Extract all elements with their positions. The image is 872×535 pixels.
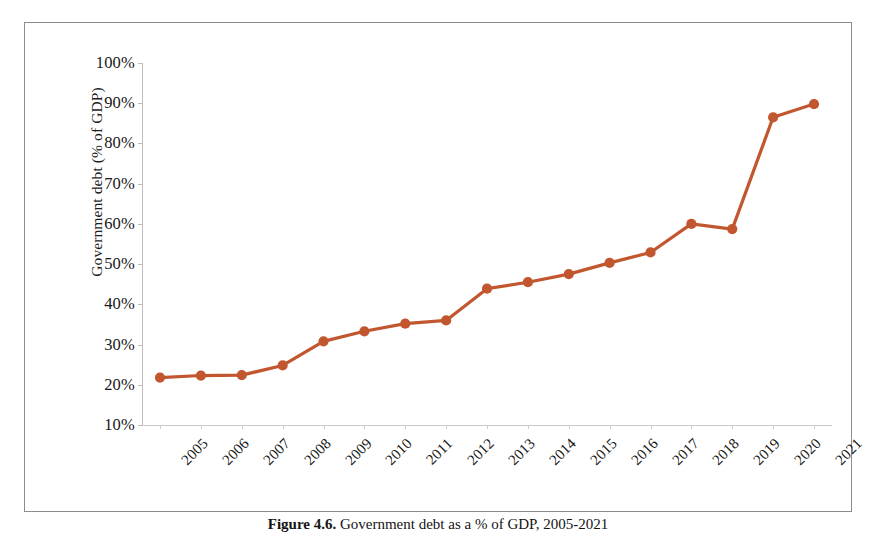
data-point-marker <box>196 370 206 380</box>
data-point-marker <box>768 112 778 122</box>
y-axis-tick-label: 100% <box>96 53 135 73</box>
y-axis-tick-label: 80% <box>104 133 135 153</box>
x-axis-tick-mark <box>487 425 488 429</box>
y-axis-tick-label: 70% <box>104 174 135 194</box>
x-axis-tick-label: 2005 <box>178 435 212 469</box>
y-axis-tick-label: 20% <box>104 375 135 395</box>
data-point-marker <box>318 336 328 346</box>
data-point-marker <box>482 284 492 294</box>
x-axis-tick-label: 2013 <box>505 435 539 469</box>
data-point-marker <box>400 319 410 329</box>
line-series-government-debt <box>142 63 832 425</box>
x-axis-tick-mark <box>732 425 733 429</box>
x-axis-tick-label: 2009 <box>342 435 376 469</box>
x-axis-tick-mark <box>324 425 325 429</box>
series-line <box>160 104 814 378</box>
data-point-marker <box>645 247 655 257</box>
x-axis-tick-mark <box>569 425 570 429</box>
x-axis-tick-label: 2021 <box>832 435 866 469</box>
data-point-marker <box>727 224 737 234</box>
x-axis-tick-label: 2010 <box>382 435 416 469</box>
y-axis-tick-mark <box>138 425 142 426</box>
x-axis-tick-label: 2011 <box>423 435 456 468</box>
x-axis-tick-mark <box>160 425 161 429</box>
data-point-marker <box>278 360 288 370</box>
x-axis-tick-mark <box>691 425 692 429</box>
y-axis-tick-label: 40% <box>104 294 135 314</box>
figure-caption-text: Government debt as a % of GDP, 2005-2021 <box>340 516 608 532</box>
x-axis-tick-label: 2015 <box>587 435 621 469</box>
figure-caption-label: Figure 4.6. <box>268 516 336 532</box>
data-point-marker <box>809 99 819 109</box>
x-axis-tick-mark <box>528 425 529 429</box>
figure-frame: Government debt (% of GDP) 100%90%80%70%… <box>24 22 852 512</box>
x-axis-tick-mark <box>651 425 652 429</box>
y-axis-tick-label: 90% <box>104 93 135 113</box>
data-point-marker <box>686 219 696 229</box>
y-axis-tick-label: 30% <box>104 335 135 355</box>
figure-caption: Figure 4.6. Government debt as a % of GD… <box>24 516 852 533</box>
x-axis-tick-mark <box>814 425 815 429</box>
x-axis-tick-label: 2016 <box>628 435 662 469</box>
x-axis-tick-mark <box>242 425 243 429</box>
x-axis-tick-mark <box>283 425 284 429</box>
data-point-marker <box>155 372 165 382</box>
x-axis-tick-mark <box>446 425 447 429</box>
x-axis-tick-mark <box>405 425 406 429</box>
data-point-marker <box>564 269 574 279</box>
x-axis-tick-mark <box>364 425 365 429</box>
x-axis-tick-label: 2007 <box>260 435 294 469</box>
x-axis-tick-label: 2020 <box>791 435 825 469</box>
x-axis-tick-label: 2014 <box>546 435 580 469</box>
x-axis-tick-mark <box>773 425 774 429</box>
x-axis-tick-label: 2019 <box>750 435 784 469</box>
data-point-marker <box>523 277 533 287</box>
x-axis-tick-label: 2012 <box>464 435 498 469</box>
data-point-marker <box>605 258 615 268</box>
y-axis-tick-label: 60% <box>104 214 135 234</box>
x-axis-tick-label: 2018 <box>709 435 743 469</box>
y-axis-tick-label: 10% <box>104 415 135 435</box>
x-axis-tick-mark <box>201 425 202 429</box>
data-point-marker <box>237 370 247 380</box>
x-axis-tick-label: 2008 <box>301 435 335 469</box>
plot-area: 100%90%80%70%60%50%40%30%20%10% 20052006… <box>142 63 832 425</box>
x-axis-tick-label: 2006 <box>219 435 253 469</box>
x-axis-tick-label: 2017 <box>669 435 703 469</box>
data-point-marker <box>359 326 369 336</box>
x-axis-tick-mark <box>610 425 611 429</box>
data-point-marker <box>441 315 451 325</box>
y-axis-tick-label: 50% <box>104 254 135 274</box>
